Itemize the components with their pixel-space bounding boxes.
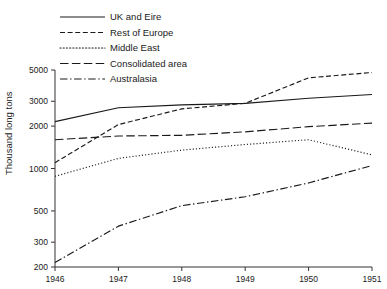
- series-lines: [55, 73, 372, 263]
- y-tick-label: 5000: [29, 65, 48, 75]
- series-line-rest-of-europe: [55, 73, 372, 163]
- x-tick-label: 1947: [109, 274, 128, 284]
- y-tick-label: 200: [34, 262, 48, 272]
- x-tick-label: 1948: [172, 274, 191, 284]
- legend-item-uk-and-eire[interactable]: UK and Eire: [60, 11, 161, 22]
- legend-item-australasia[interactable]: Australasia: [60, 73, 158, 84]
- line-chart-figure: Thousand long tons 200300500100020003000…: [0, 0, 387, 289]
- x-tick-label: 1950: [299, 274, 318, 284]
- legend-item-consolidated-area-label: Consolidated area: [110, 58, 188, 69]
- y-tick-label: 500: [34, 206, 48, 216]
- x-tick-label: 1946: [46, 274, 65, 284]
- y-tick-label: 300: [34, 237, 48, 247]
- legend-item-rest-of-europe-label: Rest of Europe: [110, 27, 173, 38]
- chart-legend: UK and EireRest of EuropeMiddle EastCons…: [60, 11, 188, 84]
- legend-item-middle-east[interactable]: Middle East: [60, 42, 160, 53]
- chart-canvas: Thousand long tons 200300500100020003000…: [0, 0, 387, 289]
- y-axis-ticks: 2003005001000200030005000: [29, 65, 55, 272]
- legend-item-rest-of-europe[interactable]: Rest of Europe: [60, 27, 173, 38]
- x-tick-label: 1949: [236, 274, 255, 284]
- legend-item-consolidated-area[interactable]: Consolidated area: [60, 58, 188, 69]
- x-tick-label: 1951: [363, 274, 382, 284]
- legend-item-middle-east-label: Middle East: [110, 42, 160, 53]
- x-axis-ticks: 194619471948194919501951: [46, 267, 382, 284]
- y-tick-label: 3000: [29, 96, 48, 106]
- y-tick-label: 1000: [29, 164, 48, 174]
- series-line-consolidated-area: [55, 123, 372, 140]
- y-tick-label: 2000: [29, 121, 48, 131]
- legend-item-uk-and-eire-label: UK and Eire: [110, 11, 161, 22]
- legend-item-australasia-label: Australasia: [110, 73, 158, 84]
- y-axis-label: Thousand long tons: [3, 91, 14, 175]
- series-line-uk-and-eire: [55, 95, 372, 122]
- series-line-middle-east: [55, 140, 372, 177]
- series-line-australasia: [55, 166, 372, 263]
